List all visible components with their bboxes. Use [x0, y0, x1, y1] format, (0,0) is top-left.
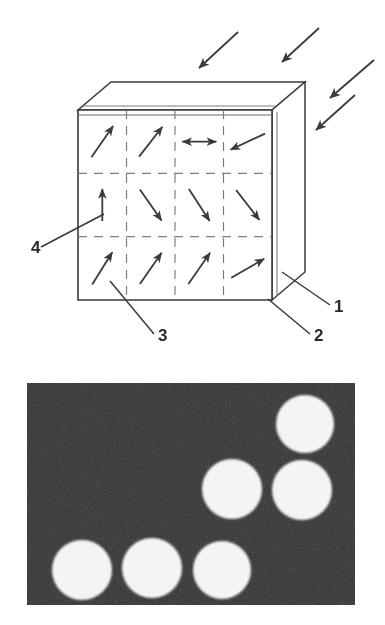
- callout-4-label: 4: [31, 238, 41, 257]
- callout-2-label: 2: [314, 326, 323, 345]
- slab-diagram: 1234: [0, 0, 385, 365]
- slab-body: [78, 82, 305, 300]
- photograph-panel: [0, 365, 385, 625]
- micrograph: [0, 365, 385, 625]
- callout-2-leader: [268, 299, 310, 334]
- incident-arrow-d: [316, 95, 355, 130]
- callout-1-label: 1: [334, 297, 343, 316]
- callout-3-label: 3: [158, 326, 167, 345]
- callout-1-leader: [282, 272, 330, 305]
- figure-root: 1234: [0, 0, 385, 625]
- diagram-panel: 1234: [0, 0, 385, 365]
- micrograph-grain: [27, 383, 355, 605]
- incident-arrow-a: [199, 32, 238, 68]
- incident-arrow-b: [282, 28, 319, 62]
- incident-arrow-c: [330, 60, 374, 98]
